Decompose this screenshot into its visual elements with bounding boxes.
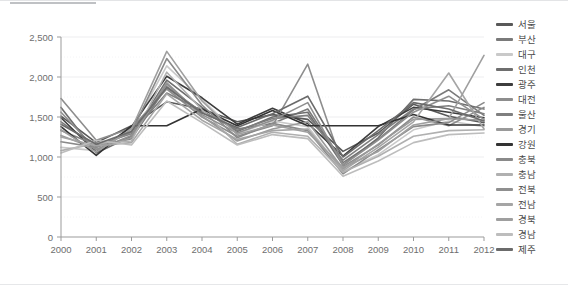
legend-item[interactable]: 대구 (496, 47, 566, 62)
y-tick-label: 2,500 (29, 32, 53, 43)
legend-color-swatch (496, 23, 513, 26)
legend-item-label: 대구 (518, 49, 536, 60)
legend-item[interactable]: 충남 (496, 167, 566, 182)
x-tick-label: 2002 (121, 244, 142, 255)
x-tick-label: 2001 (86, 244, 107, 255)
x-tick-label: 2004 (191, 244, 212, 255)
legend-color-swatch (496, 173, 513, 176)
y-axis-ticks: 05001,0001,5002,0002,500 (29, 32, 61, 243)
legend-item-label: 광주 (518, 79, 536, 90)
x-tick-label: 2006 (262, 244, 283, 255)
legend-color-swatch (496, 143, 513, 146)
x-tick-label: 2003 (156, 244, 177, 255)
legend-item[interactable]: 전남 (496, 197, 566, 212)
legend-color-swatch (496, 113, 513, 116)
line-chart-plot: 05001,0001,5002,0002,5002000200120022003… (0, 1, 568, 285)
legend-item-label: 대전 (518, 94, 536, 105)
y-tick-label: 500 (37, 192, 53, 203)
series-line (61, 87, 484, 157)
legend-item-label: 서울 (518, 19, 536, 30)
legend-item-label: 제주 (518, 244, 536, 255)
legend-item-label: 경남 (518, 229, 536, 240)
gridlines (61, 37, 484, 217)
legend-color-swatch (496, 38, 513, 41)
legend-item[interactable]: 대전 (496, 92, 566, 107)
y-tick-label: 1,000 (29, 152, 53, 163)
x-tick-label: 2011 (439, 244, 459, 255)
legend-item[interactable]: 광주 (496, 77, 566, 92)
y-tick-label: 0 (48, 232, 53, 243)
legend-item-label: 강원 (518, 139, 536, 150)
legend-item-label: 전북 (518, 184, 536, 195)
legend-item[interactable]: 충북 (496, 152, 566, 167)
legend-item[interactable]: 경기 (496, 122, 566, 137)
legend-color-swatch (496, 233, 513, 236)
legend-color-swatch (496, 188, 513, 191)
y-tick-label: 2,000 (29, 72, 53, 83)
y-tick-label: 1,500 (29, 112, 53, 123)
x-axis-ticks: 2000200120022003200420052006200720082009… (50, 237, 494, 255)
legend-item-label: 부산 (518, 34, 536, 45)
legend-item-label: 경북 (518, 214, 536, 225)
legend-item[interactable]: 부산 (496, 32, 566, 47)
legend-color-swatch (496, 158, 513, 161)
x-tick-label: 2007 (297, 244, 318, 255)
legend-color-swatch (496, 83, 513, 86)
legend-item[interactable]: 인천 (496, 62, 566, 77)
x-tick-label: 2008 (332, 244, 353, 255)
legend-item-label: 충남 (518, 169, 536, 180)
x-tick-label: 2012 (473, 244, 494, 255)
chart-figure: 05001,0001,5002,0002,5002000200120022003… (0, 0, 568, 285)
x-tick-label: 2010 (403, 244, 424, 255)
x-tick-label: 2009 (368, 244, 389, 255)
legend-item[interactable]: 제주 (496, 242, 566, 257)
legend-color-swatch (496, 98, 513, 101)
chart-legend: 서울부산대구인천광주대전울산경기강원충북충남전북전남경북경남제주 (496, 17, 566, 257)
legend-item-label: 울산 (518, 109, 536, 120)
legend-item[interactable]: 경남 (496, 227, 566, 242)
legend-color-swatch (496, 68, 513, 71)
legend-item[interactable]: 울산 (496, 107, 566, 122)
x-tick-label: 2000 (50, 244, 71, 255)
legend-color-swatch (496, 248, 513, 251)
legend-item-label: 충북 (518, 154, 536, 165)
legend-item-label: 전남 (518, 199, 536, 210)
legend-item[interactable]: 전북 (496, 182, 566, 197)
legend-color-swatch (496, 218, 513, 221)
legend-item[interactable]: 강원 (496, 137, 566, 152)
legend-item[interactable]: 경북 (496, 212, 566, 227)
legend-color-swatch (496, 203, 513, 206)
legend-item-label: 인천 (518, 64, 536, 75)
legend-color-swatch (496, 128, 513, 131)
x-tick-label: 2005 (227, 244, 248, 255)
legend-item-label: 경기 (518, 124, 536, 135)
legend-color-swatch (496, 53, 513, 56)
legend-item[interactable]: 서울 (496, 17, 566, 32)
